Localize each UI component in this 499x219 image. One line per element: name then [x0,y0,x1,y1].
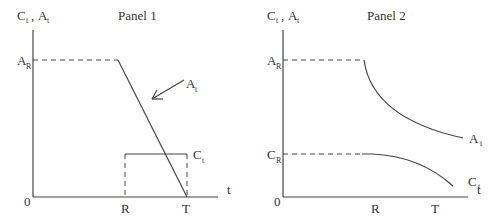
svg-text:t: t [195,85,198,94]
panel-2-cr-label: C R [267,147,282,165]
svg-text:t: t [47,16,50,25]
panel-1-asset-arrow [152,80,184,99]
svg-text:C: C [193,147,202,162]
panel-2-origin: 0 [274,194,281,209]
panel-1-title: Panel 1 [118,8,157,23]
svg-text:C: C [17,8,26,23]
svg-text:t: t [297,16,300,25]
panel-1-asset-label: A t [186,76,198,94]
panel-2-y-axis-label: C t , A t [267,8,300,25]
panel-2-tick-t: T [431,201,439,216]
svg-text:,: , [281,8,284,23]
panel-1-y-axis-label: C t , A t [17,8,50,25]
panel-2: Panel 2 C t , A t 0 t R T A R A t C R [267,8,483,216]
svg-text:,: , [31,8,34,23]
svg-text:R: R [276,156,282,165]
panel-1-origin: 0 [24,194,31,209]
svg-text:C: C [267,8,276,23]
panel-2-ar-label: A R [267,53,282,71]
svg-text:C: C [267,147,276,162]
svg-text:R: R [276,62,282,71]
panel-1-ar-label: A R [17,53,32,71]
diagram-canvas: Panel 1 C t , A t 0 t R T A R [0,0,499,219]
svg-text:t: t [276,16,279,25]
panel-2-consumption-curve [362,154,453,186]
panel-1: Panel 1 C t , A t 0 t R T A R [17,8,231,216]
panel-1-consumption-label: C t [193,147,205,165]
svg-text:C: C [468,174,477,189]
svg-text:t: t [26,16,29,25]
panel-2-asset-curve [364,60,463,138]
panel-1-tick-r: R [121,201,130,216]
svg-text:t: t [480,139,483,148]
panel-1-x-axis-label: t [227,182,231,197]
panel-1-tick-t: T [182,201,190,216]
panel-2-consumption-label: C t [468,174,481,191]
svg-text:R: R [26,62,32,71]
panel-2-asset-label: A t [469,131,483,148]
panel-1-asset-line [118,60,187,197]
panel-2-tick-r: R [371,201,380,216]
svg-text:t: t [202,156,205,165]
panel-2-title: Panel 2 [367,8,406,23]
svg-text:A: A [469,131,479,146]
